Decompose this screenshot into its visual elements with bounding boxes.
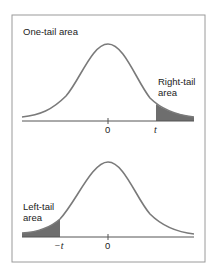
bottom-bell-curve — [22, 162, 194, 234]
right-tail-label-line1: Right-tail — [158, 76, 196, 87]
top-panel-title: One-tail area — [23, 26, 79, 37]
t-distribution-diagram: One-tail area 0 t Right-tail area 0 −t L… — [0, 0, 214, 274]
figure-frame — [12, 15, 205, 262]
left-tail-label-line2: area — [23, 212, 43, 223]
top-zero-label: 0 — [105, 124, 110, 135]
bottom-neg-t-label: −t — [54, 240, 64, 251]
right-tail-label-line2: area — [158, 87, 178, 98]
bottom-panel: 0 −t Left-tail area — [22, 162, 194, 251]
top-t-label: t — [154, 124, 157, 135]
top-panel: One-tail area 0 t Right-tail area — [22, 26, 196, 135]
bottom-zero-label: 0 — [105, 240, 110, 251]
left-tail-label-line1: Left-tail — [23, 201, 54, 212]
